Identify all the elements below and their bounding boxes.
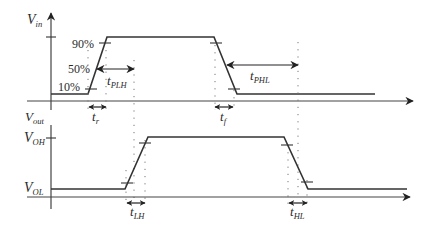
- vol-label: VOL: [24, 180, 44, 197]
- input-panel: 90% 50% 10% Vin: [27, 12, 413, 110]
- vin-label: Vin: [27, 12, 42, 29]
- output-panel: Vout VOH VOL tLH tHL: [24, 109, 410, 221]
- voh-label: VOH: [24, 130, 46, 147]
- label-10pct: 10%: [58, 80, 80, 94]
- label-90pct: 90%: [72, 37, 94, 51]
- thl-label: tHL: [290, 204, 305, 221]
- label-50pct: 50%: [68, 62, 90, 76]
- tplh-label: tPLH: [107, 73, 128, 90]
- vout-label: Vout: [25, 109, 44, 126]
- tphl-label: tPHL: [250, 68, 270, 85]
- tf-label: tf: [220, 109, 228, 126]
- guide-lines: [88, 42, 307, 204]
- vin-waveform: [51, 37, 375, 94]
- tr-label: tr: [92, 109, 100, 126]
- vout-waveform: [51, 137, 407, 189]
- timing-diagram: 90% 50% 10% Vin tPLH tPHL t: [0, 0, 436, 230]
- input-measurements: tPLH tPHL tr tf: [89, 65, 298, 126]
- tlh-label: tLH: [130, 204, 145, 221]
